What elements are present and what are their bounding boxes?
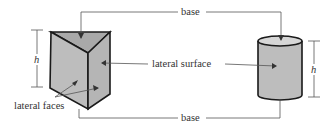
cylinder <box>258 36 302 100</box>
base-top-label: base <box>181 6 200 17</box>
lateral-faces-label: lateral faces <box>14 100 64 111</box>
cylinder-lateral-surface <box>258 41 302 100</box>
triangular-prism <box>50 32 110 109</box>
height-left-text: h <box>34 54 39 65</box>
height-right-label: h <box>311 64 316 75</box>
prism-cylinder-diagram: base base lateral surface lateral faces … <box>0 0 336 131</box>
lateral-surface-label: lateral surface <box>152 58 212 69</box>
base-bottom-label: base <box>181 112 200 123</box>
